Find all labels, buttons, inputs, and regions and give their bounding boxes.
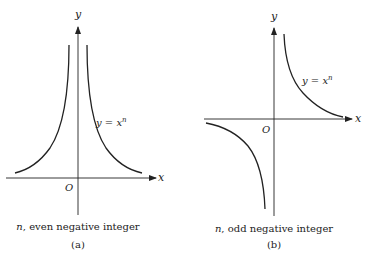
panel-a-caption: n, even negative integer — [16, 222, 139, 232]
panel-a-origin-label: O — [65, 183, 73, 193]
panel-a-x-axis-label: x — [158, 172, 164, 183]
panel-b-curve-label: y = xn — [302, 75, 333, 86]
panel-a-y-axis-label: y — [75, 9, 81, 20]
panel-a-sub-label: (a) — [71, 240, 85, 250]
panel-b-curve-label-base: y = x — [302, 75, 328, 86]
panel-a-curve-right — [87, 45, 142, 173]
panel-a-curve-label-base: y = x — [96, 117, 122, 128]
panel-b-sub-label: (b) — [267, 240, 281, 250]
panel-b-caption: n, odd negative integer — [215, 224, 333, 234]
panel-b-y-axis-label: y — [271, 11, 277, 22]
panel-b-curve-lower — [206, 123, 265, 209]
panel-b-plot — [204, 28, 352, 216]
panel-b-caption-text: , odd negative integer — [221, 223, 333, 234]
panel-a-caption-text: , even negative integer — [23, 221, 140, 232]
panel-b-curve-label-exp: n — [328, 74, 333, 82]
panel-a-curve-left — [15, 45, 69, 173]
panel-a-plot — [6, 27, 156, 215]
panel-b-origin-label: O — [262, 125, 270, 135]
panel-a-curve-label-exp: n — [122, 116, 127, 124]
panel-a-curve-label: y = xn — [96, 117, 127, 128]
panel-b-x-axis-label: x — [355, 113, 361, 124]
